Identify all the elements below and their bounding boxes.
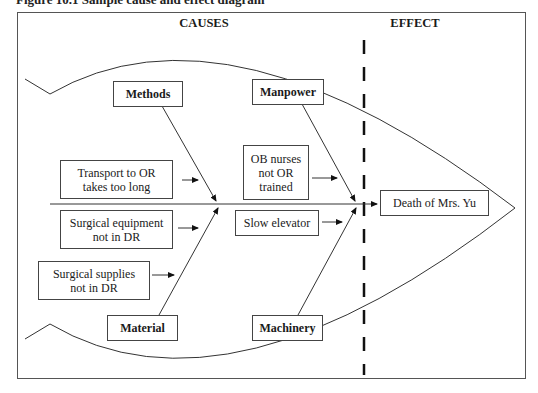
cause-surgical-supplies: Surgical supplies not in DR xyxy=(38,261,150,300)
category-manpower: Manpower xyxy=(252,79,324,105)
cause-slow-elevator: Slow elevator xyxy=(235,210,319,236)
manpower-bone xyxy=(302,104,355,201)
cause-transport: Transport to OR takes too long xyxy=(60,160,173,199)
causes-header: CAUSES xyxy=(164,16,244,31)
cause-ob-nurses: OB nurses not OR trained xyxy=(243,145,309,200)
category-material: Material xyxy=(107,315,178,341)
effect-box: Death of Mrs. Yu xyxy=(380,190,489,216)
category-machinery: Machinery xyxy=(252,315,323,341)
category-methods: Methods xyxy=(113,81,183,107)
effect-header: EFFECT xyxy=(380,16,450,31)
cause-surgical-equipment: Surgical equipment not in DR xyxy=(60,210,173,249)
